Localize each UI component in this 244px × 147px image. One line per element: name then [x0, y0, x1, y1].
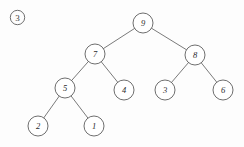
tree-node: 1 [84, 116, 104, 136]
figure-index-label: 3 [15, 13, 20, 23]
figure-index-badge: 3 [10, 10, 24, 24]
tree-node: 3 [155, 80, 175, 100]
tree-edge [103, 28, 134, 48]
tree-node-label: 5 [63, 83, 67, 93]
tree-edge [101, 62, 117, 82]
tree-node: 6 [213, 80, 233, 100]
tree-node: 8 [185, 45, 205, 65]
binary-tree-figure: 978543621 3 [0, 0, 244, 147]
tree-edge [152, 28, 187, 50]
tree-edge [72, 62, 89, 81]
tree-edges-group [44, 28, 217, 118]
tree-node-label: 3 [162, 85, 167, 95]
tree-edge [172, 63, 189, 83]
tree-node: 9 [133, 13, 153, 33]
tree-node: 7 [85, 44, 105, 64]
tree-diagram-canvas: 978543621 3 [0, 0, 244, 147]
tree-edge [201, 63, 217, 82]
tree-node-label: 1 [92, 121, 96, 131]
tree-node: 4 [114, 80, 134, 100]
tree-edge [44, 96, 59, 118]
tree-node: 5 [55, 78, 75, 98]
tree-edge [71, 96, 88, 118]
tree-node: 2 [28, 116, 48, 136]
